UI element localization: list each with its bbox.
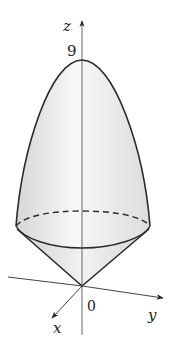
origin-label: 0 bbox=[87, 298, 96, 314]
y-axis-label: y bbox=[147, 306, 157, 324]
x-axis-label: x bbox=[53, 319, 62, 337]
solid-region-diagram: z 9 0 y x bbox=[0, 0, 185, 340]
apex-value-label: 9 bbox=[67, 42, 77, 60]
y-axis bbox=[82, 286, 163, 298]
z-axis-label: z bbox=[62, 17, 71, 35]
x-axis bbox=[52, 286, 82, 318]
y-axis-back bbox=[8, 277, 82, 286]
paraboloid-surface bbox=[16, 60, 150, 248]
